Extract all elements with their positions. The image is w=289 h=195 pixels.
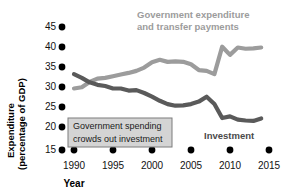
chart-canvas: Expenditure (percentage of GDP) 45 40 35… [0, 0, 289, 195]
y-tick-dot-40 [59, 44, 66, 51]
x-tick-label-2005: 2005 [180, 160, 203, 171]
x-tick-dot-2010 [227, 147, 234, 154]
y-tick-dot-30 [59, 84, 66, 91]
series-line-investment [74, 74, 261, 121]
government-expenditure-label-line1: Government expenditure [137, 9, 249, 20]
y-tick-label-40: 40 [45, 41, 57, 52]
y-tick-dot-25 [59, 104, 66, 111]
crowding-out-note-line2: crowds out investment [73, 134, 163, 144]
y-tick-dot-20 [59, 124, 66, 131]
crowding-out-note: Government spending crowds out investmen… [68, 118, 172, 147]
y-axis-title: Expenditure (percentage of GDP) [5, 78, 27, 170]
x-tick-label-2010: 2010 [219, 160, 242, 171]
x-tick-dot-1990 [71, 147, 78, 154]
y-axis-ticks: 45 40 35 30 25 20 15 [45, 21, 66, 155]
y-tick-label-30: 30 [45, 81, 57, 92]
x-tick-dot-2015 [266, 147, 273, 154]
x-tick-label-1995: 1995 [102, 160, 125, 171]
x-tick-label-1990: 1990 [63, 160, 86, 171]
x-tick-label-2000: 2000 [141, 160, 164, 171]
y-tick-label-25: 25 [45, 101, 57, 112]
x-axis-tick-markers [71, 147, 273, 154]
investment-label: Investment [204, 130, 255, 141]
y-axis-title-line1: Expenditure [5, 103, 16, 158]
y-tick-label-45: 45 [45, 21, 57, 32]
x-axis-ticks: 1990 1995 2000 2005 2010 2015 [63, 160, 281, 171]
y-axis-title-line2: (percentage of GDP) [16, 78, 27, 170]
x-tick-dot-1995 [110, 147, 117, 154]
y-tick-dot-15 [59, 147, 66, 154]
x-tick-dot-2000 [149, 147, 156, 154]
y-tick-label-15: 15 [45, 144, 57, 155]
x-tick-label-2015: 2015 [258, 160, 281, 171]
y-tick-dot-45 [59, 24, 66, 31]
y-tick-label-35: 35 [45, 61, 57, 72]
x-tick-dot-2005 [188, 147, 195, 154]
government-expenditure-label-line2: and transfer payments [137, 21, 239, 32]
y-tick-dot-35 [59, 64, 66, 71]
crowding-out-note-line1: Government spending [73, 121, 162, 131]
x-axis-title: Year [63, 178, 84, 189]
series-line-government-expenditure [74, 47, 261, 89]
y-tick-label-20: 20 [45, 121, 57, 132]
government-expenditure-label: Government expenditure and transfer paym… [137, 9, 249, 32]
chart-figure: Expenditure (percentage of GDP) 45 40 35… [0, 0, 289, 195]
